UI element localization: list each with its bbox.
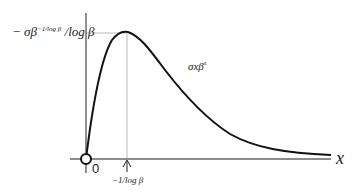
curve-sigma-x-beta-x	[86, 32, 331, 159]
origin-marker	[81, 154, 91, 164]
origin-label: 0	[92, 161, 99, 176]
x-axis-label: x	[336, 148, 344, 169]
peak-value-label: − σβ−1/log β /log β	[12, 24, 94, 40]
peak-x-label: −1/log β	[112, 175, 143, 185]
curve-label: σxβx	[188, 60, 206, 72]
